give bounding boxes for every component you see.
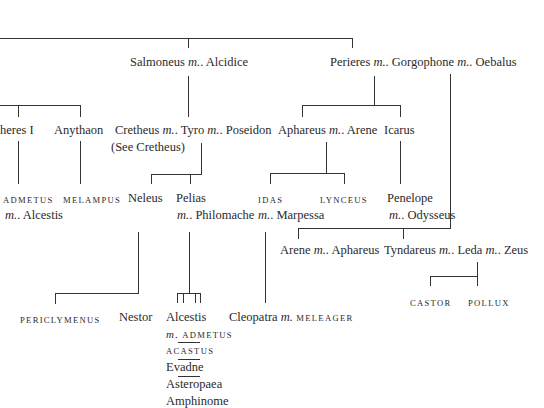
connector-line: [18, 141, 19, 184]
connector-line: [374, 76, 375, 105]
node-pollux: pollux: [468, 296, 510, 310]
connector-line: [55, 293, 139, 294]
node-anythaon: Anythaon: [54, 123, 103, 137]
node-pelias-spouse: m.. Philomache: [177, 208, 254, 222]
connector-line: [188, 76, 189, 117]
connector-line: [177, 293, 178, 303]
node-aphareus: Aphareus m.. Arene: [278, 123, 377, 137]
connector-line: [403, 228, 404, 239]
underline-divider: [178, 342, 200, 343]
connector-line: [151, 174, 202, 175]
node-alcestis: Alcestis: [166, 310, 206, 324]
node-admetus: admetus: [3, 193, 54, 207]
connector-line: [302, 105, 303, 117]
connector-line: [450, 74, 451, 228]
node-salmoneus: Salmoneus m.. Alcidice: [130, 55, 248, 69]
connector-line: [430, 276, 478, 277]
node-perieres: Perieres m.. Gorgophone m.. Oebalus: [330, 55, 517, 69]
connector-line: [477, 276, 478, 286]
connector-line: [344, 173, 345, 184]
connector-line: [265, 232, 266, 303]
node-idas-spouse: m.. Marpessa: [258, 208, 324, 222]
connector-line: [183, 293, 184, 303]
connector-line: [270, 173, 271, 184]
node-cretheus: Cretheus m.. Tyro m.. Poseidon: [115, 123, 272, 137]
connector-line: [151, 174, 152, 184]
connector-line: [400, 141, 401, 184]
connector-line: [298, 228, 299, 239]
connector-line: [0, 105, 81, 106]
connector-line: [298, 228, 451, 229]
node-neleus: Neleus: [128, 191, 163, 205]
connector-line: [200, 293, 201, 303]
node-pelias: Pelias: [176, 191, 206, 205]
node-penelope: Penelope: [387, 191, 433, 205]
node-icarus: Icarus: [384, 123, 415, 137]
node-amphinome: Amphinome: [166, 394, 229, 408]
connector-line: [201, 143, 202, 175]
node-periclymenus: periclymenus: [20, 313, 101, 327]
family-tree-diagram: Salmoneus m.. Alcidice Perieres m.. Gorg…: [0, 0, 544, 408]
connector-line: [190, 174, 191, 184]
connector-line: [400, 105, 401, 117]
node-acastus: acastus: [166, 344, 214, 358]
node-asteropaea: Asteropaea: [166, 377, 222, 391]
node-evadne: Evadne: [166, 360, 203, 374]
node-arene: Arene m.. Aphareus: [280, 243, 379, 257]
node-lynceus: lynceus: [320, 193, 368, 207]
connector-line: [430, 276, 431, 286]
connector-line: [80, 141, 81, 184]
node-penelope-spouse: m.. Odysseus: [389, 208, 455, 222]
connector-line: [270, 173, 345, 174]
node-cleopatra: Cleopatra m. meleager: [229, 310, 354, 325]
connector-line: [80, 105, 81, 117]
node-pheres: Pheres I: [0, 123, 34, 137]
node-alcestis-spouse: m. admetus: [166, 327, 233, 342]
connector-line: [302, 105, 400, 106]
connector-line: [177, 293, 201, 294]
node-tyndareus: Tyndareus m.. Leda m.. Zeus: [384, 243, 528, 257]
connector-line: [326, 142, 327, 173]
connector-line: [55, 293, 56, 304]
node-admetus-spouse: m.. Alcestis: [5, 208, 63, 222]
connector-line: [189, 232, 190, 293]
node-castor: castor: [410, 296, 452, 310]
connector-line: [138, 232, 139, 294]
node-idas: idas: [258, 193, 283, 207]
connector-line: [195, 293, 196, 303]
see-cretheus-note: (See Cretheus): [111, 140, 185, 154]
connector-line: [0, 38, 353, 39]
connector-line: [477, 262, 478, 276]
node-nestor: Nestor: [119, 310, 152, 324]
connector-line: [18, 105, 19, 117]
connector-line: [188, 38, 189, 48]
node-melampus: melampus: [63, 193, 121, 207]
connector-line: [352, 38, 353, 48]
